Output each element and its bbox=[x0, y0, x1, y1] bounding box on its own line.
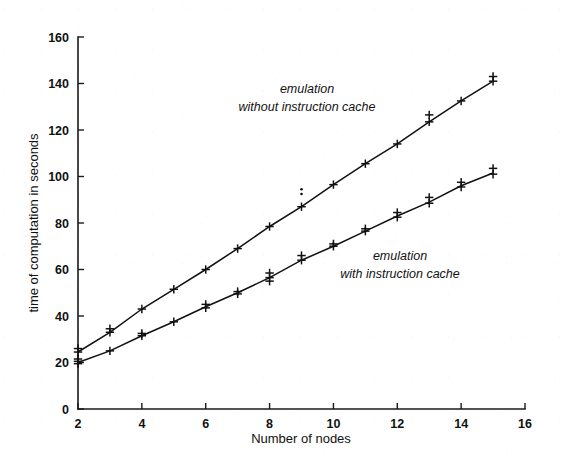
annotation-lower-line1: emulation bbox=[373, 249, 427, 263]
annotation-upper-line2: without instruction cache bbox=[239, 100, 376, 114]
annotation-upper-line1: emulation bbox=[280, 82, 334, 96]
x-tick-label: 16 bbox=[518, 417, 532, 431]
x-tick-label: 6 bbox=[202, 417, 209, 431]
y-tick-label: 160 bbox=[48, 31, 69, 45]
x-tick-label: 12 bbox=[390, 417, 404, 431]
computation-time-line-chart: 020406080100120140160 246810121416 time … bbox=[0, 0, 569, 459]
y-tick-label: 20 bbox=[55, 356, 69, 370]
chart-figure: 020406080100120140160 246810121416 time … bbox=[0, 0, 569, 459]
outlier-point bbox=[300, 193, 303, 196]
x-tick-label: 10 bbox=[326, 417, 340, 431]
y-axis-title: time of computation in seconds bbox=[26, 133, 41, 313]
y-tick-label: 60 bbox=[55, 263, 69, 277]
y-tick-label: 120 bbox=[48, 124, 69, 138]
x-tick-label: 2 bbox=[75, 417, 82, 431]
y-tick-label: 0 bbox=[62, 403, 69, 417]
x-tick-label: 14 bbox=[454, 417, 468, 431]
y-tick-label: 140 bbox=[48, 77, 69, 91]
y-tick-label: 100 bbox=[48, 170, 69, 184]
y-tick-label: 40 bbox=[55, 310, 69, 324]
y-tick-label: 80 bbox=[55, 217, 69, 231]
x-axis-title: Number of nodes bbox=[251, 431, 351, 446]
annotation-lower-line2: with instruction cache bbox=[340, 267, 460, 281]
outlier-point bbox=[300, 188, 303, 191]
x-tick-label: 4 bbox=[138, 417, 145, 431]
chart-background bbox=[0, 0, 569, 459]
x-tick-label: 8 bbox=[266, 417, 273, 431]
